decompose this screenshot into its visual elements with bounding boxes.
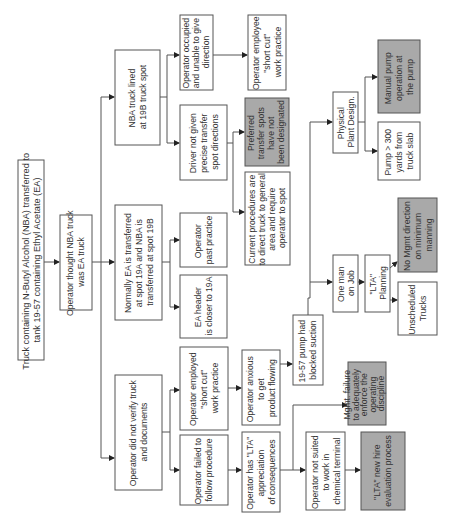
svg-text:Truck containing N-Butyl Alcoh: Truck containing N-Butyl Alcohol (NBA) t… [21, 150, 42, 369]
node-text: been designated [276, 100, 286, 164]
node-text: Operator employed [188, 352, 198, 426]
node-lta-new-hire: "LTA" new hire evaluation process [361, 432, 405, 510]
node-text: transferred at spot 19B [145, 218, 155, 306]
node-nba-lined: NBA truck lined at 19B truck spot [115, 50, 160, 145]
node-no-mgmt-direction: No Mgmt direction on minimum manning [398, 198, 437, 272]
node-text: EA header [193, 287, 203, 327]
node-text: Operator employee [251, 16, 261, 90]
node-unscheduled-trucks: Unscheduled Trucks [398, 282, 437, 335]
node-text: Operator anxious [245, 356, 255, 422]
node-preferred-spots: Preferred transfer spots have not been d… [245, 98, 289, 166]
node-text: and unable to give [191, 18, 201, 88]
node-text: tank 19-57 containing Ethyl Acetate (EA) [32, 178, 42, 343]
node-text: "LTA" [368, 274, 378, 295]
node-operator-thought: Operator thought NBA truck was EA truck [60, 208, 92, 316]
node-employed-short-cut: Operator employed "short cut" work pract… [180, 347, 228, 430]
node-text: manning [424, 218, 434, 251]
node-root: Truck containing N-Butyl Alcohol (NBA) t… [18, 150, 44, 369]
node-text: at spot 19A and NBA is [134, 219, 144, 307]
node-text: truck slab [405, 132, 415, 169]
node-mgmt-failure: Mgmt. failure to adequately enforce the … [342, 362, 386, 425]
node-text: "short cut" [262, 34, 272, 73]
node-text: past practice [204, 215, 214, 264]
node-text: Manual pump [383, 52, 393, 104]
svg-text:Operator past practice: Operator past practice [193, 215, 214, 264]
svg-text:Driver not given precise: Driver not given precise transfer spot d… [188, 111, 220, 174]
node-text: spot directions [210, 114, 220, 169]
node-text: on Job [346, 270, 356, 296]
node-ea-header: EA header is closer to 19A [180, 275, 227, 338]
svg-text:EA header is closer to 1: EA header is closer to 19A [193, 276, 214, 335]
svg-text:Pump > 300 yards from: Pump > 300 yards from truck slab [383, 127, 415, 176]
node-text: the pump [405, 59, 415, 95]
node-text: blocked suction [308, 320, 318, 379]
node-text: Operator [193, 224, 203, 258]
node-text: Plant Design. [346, 96, 356, 147]
node-text: and documents [139, 403, 149, 462]
node-text: have not [266, 116, 276, 150]
node-text: chemical terminal [332, 437, 342, 504]
node-anxious: Operator anxious to get product flowing [242, 350, 280, 425]
node-failed-follow: Operator failed to follow procedure [180, 435, 228, 505]
node-pump-blocked: 19-57 pump had blocked suction [293, 315, 323, 385]
node-text: NBA truck lined [127, 69, 137, 128]
svg-text:"LTA" new hire evaluatio: "LTA" new hire evaluation process [372, 435, 393, 507]
svg-text:19-57 pump had blocked s: 19-57 pump had blocked suction [297, 318, 318, 383]
node-driver-not-given: Driver not given precise transfer spot d… [180, 105, 227, 180]
node-text: operation at [394, 55, 404, 101]
node-text: Operator did not verify truck [128, 379, 138, 486]
node-text: Normally EA is transferred [123, 213, 133, 313]
node-text: Operator occupied [181, 18, 191, 89]
node-text: Planning [378, 266, 388, 300]
node-one-man: One man on Job [333, 255, 358, 312]
node-text: follow procedure [204, 438, 214, 501]
node-physical-plant: Physical Plant Design. [333, 92, 358, 153]
node-text: Preferred [246, 115, 256, 151]
node-current-procedures: Current procedures are to direct truck t… [245, 171, 290, 266]
node-text: work practice [273, 26, 283, 78]
node-manual-pump: Manual pump operation at the pump [378, 40, 420, 113]
node-text: Trucks [418, 296, 428, 321]
node-text: was EA truck [76, 236, 86, 287]
node-lta-planning: "LTA" Planning [365, 255, 390, 312]
fault-tree-diagram: Truck containing N-Butyl Alcohol (NBA) t… [0, 0, 452, 531]
node-text: is closer to 19A [204, 276, 214, 335]
node-not-suited: Operator not suited to work in chemical … [306, 432, 345, 510]
node-text: "LTA" new hire [372, 444, 382, 500]
node-text: Driver not given [188, 113, 198, 173]
node-operator-occupied: Operator occupied and unable to give dir… [180, 15, 213, 90]
node-text: on minimum [413, 213, 423, 260]
node-text: Physical [336, 107, 346, 139]
node-text: yards from [394, 132, 404, 173]
node-normally-ea: Normally EA is transferred at spot 19A a… [115, 205, 162, 320]
node-employee-short-cut: Operator employee "short cut" work pract… [248, 14, 286, 90]
node-text: of consequences [267, 440, 277, 505]
node-text: transfer spots [256, 107, 266, 159]
node-text: area and require [267, 187, 277, 250]
node-lta-appreciation: Operator has "LTA" appreciation of conse… [242, 432, 280, 512]
node-text: to get [256, 378, 266, 400]
node-text: Operator has "LTA" [245, 437, 255, 510]
node-text: operator to spot [277, 187, 287, 248]
node-text: discipline [376, 376, 386, 412]
node-text: Operator not suited [310, 435, 320, 509]
node-text: direction [201, 36, 211, 69]
svg-text:Normally EA is transferred: Normally EA is transferred at spot 19A a… [123, 211, 155, 313]
node-text: Current procedures are [247, 175, 257, 264]
node-text: product flowing [267, 359, 277, 417]
svg-text:Operator failed to follo: Operator failed to follow procedure [193, 436, 214, 505]
node-text: appreciation [256, 450, 266, 497]
node-text: evaluation process [383, 435, 393, 507]
node-text: at 19B truck spot [138, 64, 148, 129]
node-past-practice: Operator past practice [180, 213, 227, 267]
node-text: Pump > 300 [383, 129, 393, 176]
node-text: Truck containing N-Butyl Alcohol (NBA) t… [21, 153, 31, 370]
node-text: One man [336, 266, 346, 302]
node-text: Operator thought NBA truck [65, 210, 75, 316]
svg-text:NBA truck lined at 19B t: NBA truck lined at 19B truck spot [127, 64, 148, 129]
node-text: precise transfer [199, 113, 209, 172]
node-not-verify: Operator did not verify truck and docume… [115, 375, 162, 490]
node-pump-300-yards: Pump > 300 yards from truck slab [378, 122, 420, 180]
node-text: to work in [321, 454, 331, 491]
node-text: 19-57 pump had [297, 320, 307, 383]
